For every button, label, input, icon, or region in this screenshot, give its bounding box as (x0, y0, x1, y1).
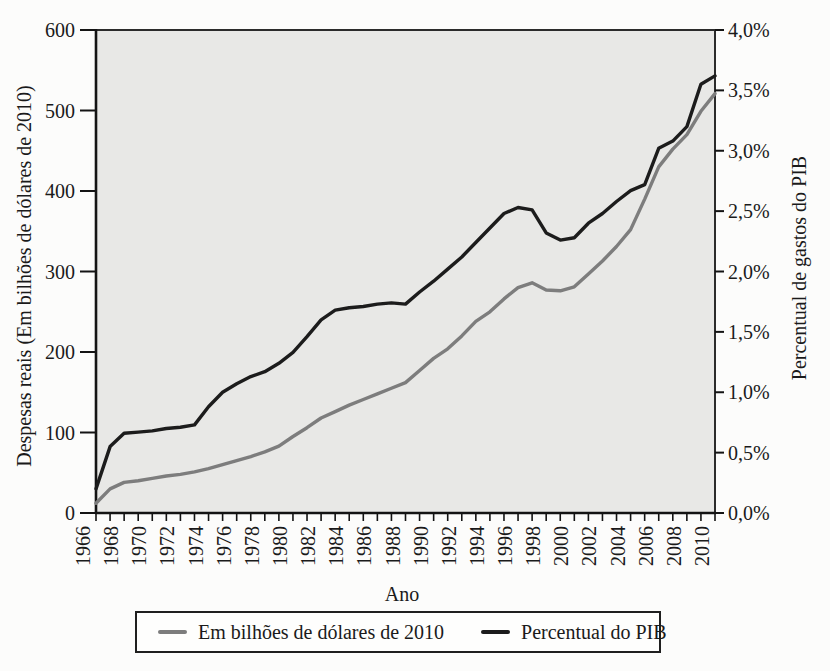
x-tick-label: 2004 (607, 526, 629, 566)
x-tick-label: 1988 (382, 526, 404, 566)
legend-label-dollars: Em bilhões de dólares de 2010 (198, 621, 444, 644)
y-left-tick-label: 400 (45, 180, 75, 202)
legend-item-pib: Percentual do PIB (481, 621, 667, 644)
x-tick-label: 1982 (297, 526, 319, 566)
legend-label-pib: Percentual do PIB (521, 621, 667, 644)
legend: Em bilhões de dólares de 2010 Percentual… (135, 611, 661, 653)
x-tick-label: 1998 (522, 526, 544, 566)
y-right-tick-label: 4,0% (728, 19, 770, 41)
y-right-tick-label: 0,0% (728, 502, 770, 524)
y-right-tick-label: 1,0% (728, 381, 770, 403)
x-tick-label: 1966 (72, 526, 94, 566)
left-axis-title: Despesas reais (Em bilhões de dólares de… (14, 85, 34, 467)
x-tick-label: 2000 (550, 526, 572, 566)
x-tick-label: 1974 (185, 526, 207, 566)
x-tick-label: 1978 (241, 526, 263, 566)
x-tick-label: 2002 (578, 526, 600, 566)
y-left-tick-label: 0 (65, 502, 75, 524)
x-tick-label: 1992 (438, 526, 460, 566)
y-left-tick-label: 200 (45, 341, 75, 363)
right-axis-title: Percentual de gastos do PIB (789, 156, 809, 380)
y-right-tick-label: 2,5% (728, 200, 770, 222)
x-tick-label: 2006 (635, 526, 657, 566)
x-tick-label: 2010 (691, 526, 713, 566)
x-tick-label: 1972 (156, 526, 178, 566)
y-right-tick-label: 1,5% (728, 321, 770, 343)
x-tick-label: 1994 (466, 526, 488, 566)
plot-area (96, 30, 715, 513)
x-tick-label: 1996 (494, 526, 516, 566)
x-tick-label: 1970 (128, 526, 150, 566)
y-left-tick-label: 100 (45, 422, 75, 444)
y-right-tick-label: 3,0% (728, 140, 770, 162)
chart-svg: 01002003004005006000,0%0,5%1,0%1,5%2,0%2… (0, 0, 830, 671)
x-tick-label: 1980 (269, 526, 291, 566)
y-right-tick-label: 3,5% (728, 79, 770, 101)
x-axis-title: Ano (385, 584, 419, 604)
y-left-tick-label: 500 (45, 100, 75, 122)
x-tick-label: 1990 (410, 526, 432, 566)
x-tick-label: 1976 (213, 526, 235, 566)
chart-figure: 01002003004005006000,0%0,5%1,0%1,5%2,0%2… (0, 0, 830, 671)
legend-item-dollars: Em bilhões de dólares de 2010 (158, 621, 444, 644)
x-tick-label: 1986 (353, 526, 375, 566)
x-tick-label: 1968 (100, 526, 122, 566)
y-right-tick-label: 0,5% (728, 442, 770, 464)
legend-swatch-dollars-icon (158, 630, 187, 634)
legend-swatch-pib-icon (481, 630, 510, 634)
x-tick-label: 2008 (663, 526, 685, 566)
y-left-tick-label: 300 (45, 261, 75, 283)
y-left-tick-label: 600 (45, 19, 75, 41)
y-right-tick-label: 2,0% (728, 261, 770, 283)
x-tick-label: 1984 (325, 526, 347, 566)
